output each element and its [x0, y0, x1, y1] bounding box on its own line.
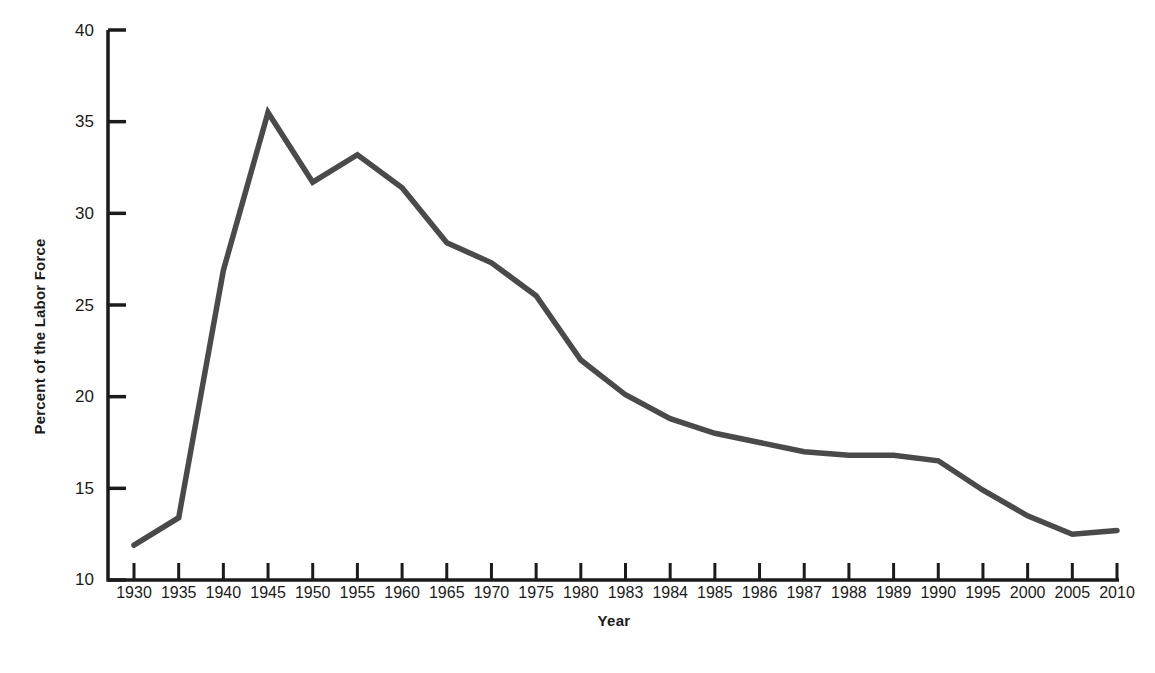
axis-frame	[108, 30, 1119, 580]
plot-area	[0, 0, 1155, 673]
x-axis-tick-labels: 1930193519401945195019551960196519701975…	[0, 584, 1155, 608]
y-tick-label: 30	[52, 205, 94, 222]
y-axis-ticks	[108, 30, 126, 580]
y-tick-label: 15	[52, 480, 94, 497]
y-axis-tick-labels: 40 35 30 25 20 15 10	[52, 0, 94, 620]
y-tick-label: 20	[52, 388, 94, 405]
y-tick-label: 25	[52, 297, 94, 314]
y-axis-title: Percent of the Labor Force	[22, 0, 56, 673]
x-axis-title: Year	[108, 612, 1120, 629]
data-series-line	[134, 113, 1117, 546]
y-tick-label: 35	[52, 113, 94, 130]
y-tick-label: 40	[52, 22, 94, 39]
chart-figure: Percent of the Labor Force 40 35 30 25 2…	[0, 0, 1155, 673]
axis-lines	[108, 30, 1119, 580]
x-axis-ticks	[134, 563, 1117, 580]
x-tick-label: 2010	[1087, 584, 1147, 602]
